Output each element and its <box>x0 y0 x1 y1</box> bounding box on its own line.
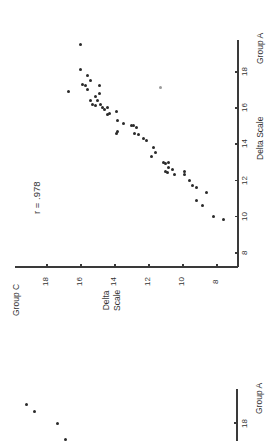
tick-label: 10 <box>241 212 249 221</box>
data-point <box>222 218 225 221</box>
axis-group-a <box>237 40 239 267</box>
data-point <box>25 403 28 406</box>
data-point <box>135 126 138 129</box>
data-point <box>115 110 118 113</box>
tick-mark <box>235 252 238 254</box>
data-point <box>116 119 119 122</box>
data-point <box>133 132 136 135</box>
lower-group-a-label: Group A <box>255 383 264 414</box>
data-point <box>191 184 194 187</box>
data-point <box>96 99 99 102</box>
data-point <box>98 92 101 95</box>
data-point <box>106 113 109 116</box>
data-point <box>106 106 109 109</box>
data-point <box>33 410 36 413</box>
data-point <box>171 168 174 171</box>
delta-scale-y-label: Delta Scale <box>101 290 122 311</box>
data-point <box>167 161 170 164</box>
data-point <box>115 132 118 135</box>
data-point <box>94 104 97 107</box>
data-point <box>212 215 215 218</box>
data-point <box>86 74 89 77</box>
data-point <box>195 186 198 189</box>
tick-mark <box>235 180 238 182</box>
tick-label: 18 <box>241 67 249 76</box>
lower-tick-18 <box>234 422 237 424</box>
data-point <box>183 170 186 173</box>
tick-mark <box>46 264 48 267</box>
data-point <box>166 171 169 174</box>
tick-label: 8 <box>212 280 220 284</box>
tick-label: 14 <box>241 139 249 148</box>
data-point <box>159 86 162 89</box>
tick-mark <box>80 264 82 267</box>
data-point <box>84 84 87 87</box>
data-point <box>183 173 186 176</box>
data-point <box>188 179 191 182</box>
data-point <box>154 151 157 154</box>
tick-label: 16 <box>241 103 249 112</box>
tick-label: 18 <box>42 277 50 286</box>
lower-axis-group-a <box>236 389 238 441</box>
data-point <box>145 139 148 142</box>
data-point <box>79 68 82 71</box>
data-point <box>201 204 204 207</box>
tick-mark <box>216 264 218 267</box>
data-point <box>56 422 59 425</box>
tick-label: 8 <box>241 251 249 255</box>
tick-label: 16 <box>76 277 84 286</box>
data-point <box>79 43 82 46</box>
tick-mark <box>235 71 238 73</box>
data-point <box>167 166 170 169</box>
tick-label: 14 <box>110 277 118 286</box>
tick-mark <box>235 216 238 218</box>
tick-mark <box>235 107 238 109</box>
tick-label: 10 <box>178 277 186 286</box>
data-point <box>86 88 89 91</box>
group-c-label: Group C <box>12 284 21 316</box>
data-point <box>89 79 92 82</box>
tick-mark <box>235 143 238 145</box>
tick-mark <box>114 264 116 267</box>
r-value-annotation: r = .978 <box>32 182 42 214</box>
delta-scale-x-label: Delta Scale <box>256 117 265 160</box>
group-a-label: Group A <box>256 33 265 64</box>
axis-group-c <box>15 266 238 268</box>
data-point <box>122 122 125 125</box>
data-point <box>173 173 176 176</box>
data-point <box>205 191 208 194</box>
data-point <box>137 133 140 136</box>
lower-tick-label-18: 18 <box>241 419 249 428</box>
data-point <box>152 146 155 149</box>
data-point <box>195 199 198 202</box>
tick-label: 12 <box>241 176 249 185</box>
data-point <box>89 99 92 102</box>
tick-label: 12 <box>144 277 152 286</box>
data-point <box>98 84 101 87</box>
data-point <box>99 103 102 106</box>
tick-mark <box>182 264 184 267</box>
data-point <box>67 90 70 93</box>
tick-mark <box>148 264 150 267</box>
data-point <box>94 95 97 98</box>
data-point <box>150 155 153 158</box>
